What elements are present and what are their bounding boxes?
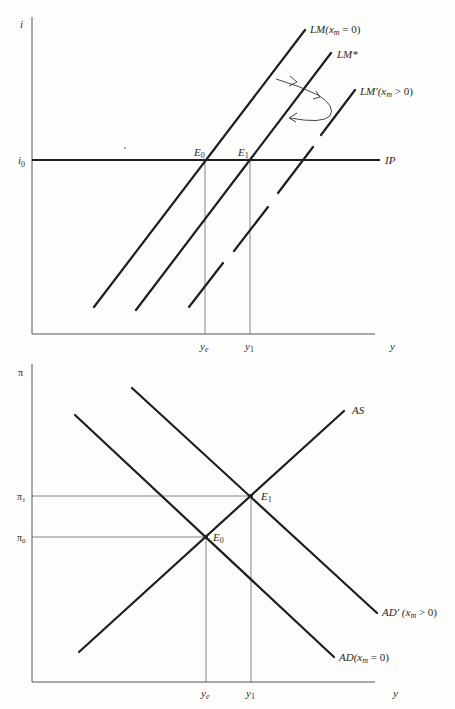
pi-axis-label: π <box>18 367 23 378</box>
e0-point <box>204 535 208 539</box>
lm-prime-label: LM′(xm > 0) <box>359 85 413 99</box>
as-label: AS <box>351 404 365 416</box>
top-panel: i y i0 IP ye y1 LM(xm = 0) LM* LM′(xm > … <box>18 17 413 354</box>
ad-prime-curve <box>132 388 377 613</box>
e0-label-bottom: E0 <box>212 531 224 545</box>
pi0-label: π0 <box>17 532 26 545</box>
lm-star-label: LM* <box>336 48 358 60</box>
lm-curve <box>94 30 305 307</box>
i-axis-label: i <box>20 18 23 30</box>
as-curve <box>79 411 344 652</box>
e1-point <box>249 494 253 498</box>
ad-prime-label: AD′ (xm > 0) <box>381 606 437 620</box>
speck <box>124 147 126 149</box>
lm-star-curve <box>136 53 331 310</box>
e1-label-bottom: E1 <box>260 490 272 504</box>
ip-label: IP <box>384 154 396 166</box>
e1-label-top: E1 <box>237 146 249 160</box>
is-lm-ad-as-diagram: i y i0 IP ye y1 LM(xm = 0) LM* LM′(xm > … <box>0 0 455 709</box>
y1-label-top: y1 <box>244 340 254 354</box>
i0-label: i0 <box>18 154 25 169</box>
ad-label: AD(xm = 0) <box>338 651 389 665</box>
y-axis-label-top: y <box>389 340 395 352</box>
pi1-label: π1 <box>17 491 26 504</box>
bottom-panel: π y π1 π0 ye y1 AS AD(xm = 0) AD′ (xm > … <box>17 364 437 701</box>
ye-label-top: ye <box>199 340 209 354</box>
lm-label: LM(xm = 0) <box>309 23 361 37</box>
ye-label-bottom: ye <box>200 687 210 701</box>
e0-label-top: E0 <box>193 146 205 160</box>
y1-label-bottom: y1 <box>245 687 255 701</box>
y-axis-label-bottom: y <box>392 687 398 699</box>
lm-prime-curve <box>189 90 355 307</box>
